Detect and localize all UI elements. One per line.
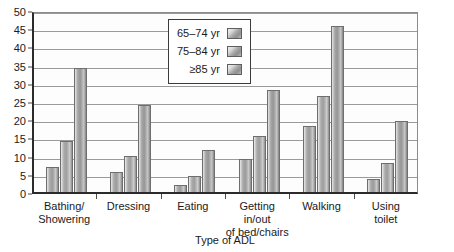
x-axis-tick-mark <box>161 194 162 199</box>
bar <box>381 163 394 192</box>
legend-item-label: 75–84 yr <box>177 45 220 57</box>
y-axis: 05101520253035404550 <box>0 12 32 194</box>
x-axis-category-label: Walking <box>289 200 353 213</box>
legend-swatch-icon <box>227 46 242 57</box>
bar-group <box>98 13 162 192</box>
bar <box>188 176 201 192</box>
y-axis-tick-label: 10 <box>14 152 26 163</box>
x-axis-labels: Bathing/ShoweringDressingEatingGetting i… <box>32 200 418 234</box>
legend-swatch-icon <box>227 64 242 75</box>
legend-item: 75–84 yr <box>177 42 242 60</box>
bar <box>138 105 151 192</box>
bar <box>395 121 408 192</box>
bar <box>60 141 73 192</box>
y-axis-tick-label: 20 <box>14 116 26 127</box>
y-axis-tick-label: 0 <box>20 189 26 200</box>
bar <box>124 156 137 192</box>
y-axis-tick-label: 5 <box>20 170 26 181</box>
bar <box>303 126 316 192</box>
bar <box>46 167 59 192</box>
bar <box>74 68 87 192</box>
legend-item-label: ≥85 yr <box>189 63 220 75</box>
legend-item-label: 65–74 yr <box>177 27 220 39</box>
bar-group <box>356 13 420 192</box>
bar-group <box>291 13 355 192</box>
bar <box>239 159 252 192</box>
y-axis-tick-label: 35 <box>14 61 26 72</box>
x-axis-category-label: Dressing <box>96 200 160 213</box>
bar-group <box>34 13 98 192</box>
x-axis-category-label: Eating <box>161 200 225 213</box>
x-axis-tick-mark <box>354 194 355 199</box>
y-axis-tick-label: 50 <box>14 7 26 18</box>
legend: 65–74 yr 75–84 yr ≥85 yr <box>168 19 251 84</box>
legend-item: 65–74 yr <box>177 24 242 42</box>
bar <box>267 90 280 192</box>
bar <box>367 179 380 192</box>
y-axis-tick-label: 30 <box>14 79 26 90</box>
x-axis-tick-mark <box>289 194 290 199</box>
x-axis-title: Type of ADL <box>32 234 418 246</box>
y-axis-tick-label: 25 <box>14 98 26 109</box>
legend-item: ≥85 yr <box>177 60 242 78</box>
bar <box>253 136 266 192</box>
x-axis-category-label: Usingtoilet <box>354 200 418 226</box>
y-axis-tick-label: 15 <box>14 134 26 145</box>
bar <box>317 96 330 192</box>
x-axis-tick-mark <box>96 194 97 199</box>
x-axis-tick-mark <box>225 194 226 199</box>
y-axis-tick-label: 45 <box>14 25 26 36</box>
bar <box>202 150 215 192</box>
x-axis-category-label: Bathing/Showering <box>32 200 96 226</box>
bar <box>110 172 123 192</box>
legend-swatch-icon <box>227 28 242 39</box>
bar-chart: 05101520253035404550 Bathing/ShoweringDr… <box>0 0 454 252</box>
bar <box>331 26 344 192</box>
bar <box>174 185 187 192</box>
y-axis-tick-label: 40 <box>14 43 26 54</box>
